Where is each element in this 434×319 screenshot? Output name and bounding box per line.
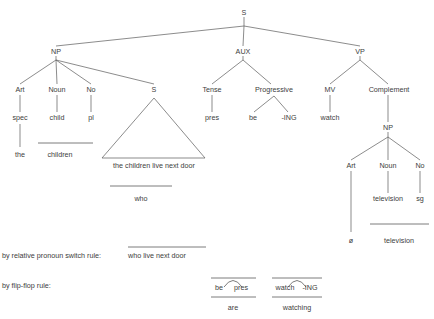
flip-flop-result-are: are xyxy=(228,303,238,312)
embedded-s-triangle xyxy=(102,98,205,158)
flip-flop-right-pres: pres xyxy=(234,283,248,292)
realization-who: who xyxy=(133,194,147,203)
node-complement: Complement xyxy=(369,85,410,94)
flip-flop-right-ing: -ING xyxy=(302,283,318,292)
flip-flop-left-watch: watch xyxy=(275,283,295,292)
aux-branches xyxy=(212,56,271,84)
realization-television-final: television xyxy=(384,236,414,245)
node-art-subject: Art xyxy=(15,85,24,94)
realization-children: children xyxy=(47,150,72,159)
terminal-television: television xyxy=(373,194,403,203)
terminal-spec: spec xyxy=(12,113,28,122)
node-np-subject: NP xyxy=(51,47,61,56)
terminal-be: be xyxy=(249,113,257,122)
flip-flop-left-be: be xyxy=(215,283,223,292)
np-object-branches xyxy=(351,132,420,160)
node-no-object: No xyxy=(415,161,424,170)
realization-embedded-clause: the children live next door xyxy=(113,161,196,170)
terminal-watch: watch xyxy=(320,113,340,122)
syntax-tree-diagram: S NP Art Noun No S spec child pl the chi… xyxy=(0,0,434,319)
terminal-child: child xyxy=(50,113,65,122)
terminal-pl: pl xyxy=(88,113,94,122)
node-progressive: Progressive xyxy=(255,85,293,94)
node-noun-object: Noun xyxy=(379,161,396,170)
node-aux: AUX xyxy=(236,47,251,56)
aux-terminal-stems xyxy=(212,95,288,112)
terminal-ing: -ING xyxy=(281,113,297,122)
node-vp: VP xyxy=(355,47,365,56)
node-np-object: NP xyxy=(383,123,393,132)
root-branches xyxy=(56,17,360,46)
node-mv: MV xyxy=(325,85,336,94)
flip-flop-result-watching: watching xyxy=(282,303,311,312)
terminal-pres: pres xyxy=(205,113,219,122)
node-art-object: Art xyxy=(346,161,355,170)
vp-branches xyxy=(330,56,388,84)
np-subject-branches xyxy=(20,56,154,84)
realization-the: the xyxy=(15,150,25,159)
tree-canvas: S NP Art Noun No S spec child pl the chi… xyxy=(0,0,434,319)
rule-label-relative-pronoun-switch: by relative pronoun switch rule: xyxy=(2,251,101,260)
rule-output-relative-pronoun-switch: who live next door xyxy=(127,251,187,260)
rule-label-flip-flop: by flip-flop rule: xyxy=(2,281,51,290)
realization-null-article: ø xyxy=(349,236,354,245)
node-s-root: S xyxy=(242,8,247,17)
node-no-subject: No xyxy=(86,85,95,94)
np-subject-terminal-stems xyxy=(20,95,91,112)
terminal-sg: sg xyxy=(416,194,424,203)
node-tense: Tense xyxy=(202,85,221,94)
node-s-embedded: S xyxy=(152,85,157,94)
node-noun-subject: Noun xyxy=(48,85,65,94)
